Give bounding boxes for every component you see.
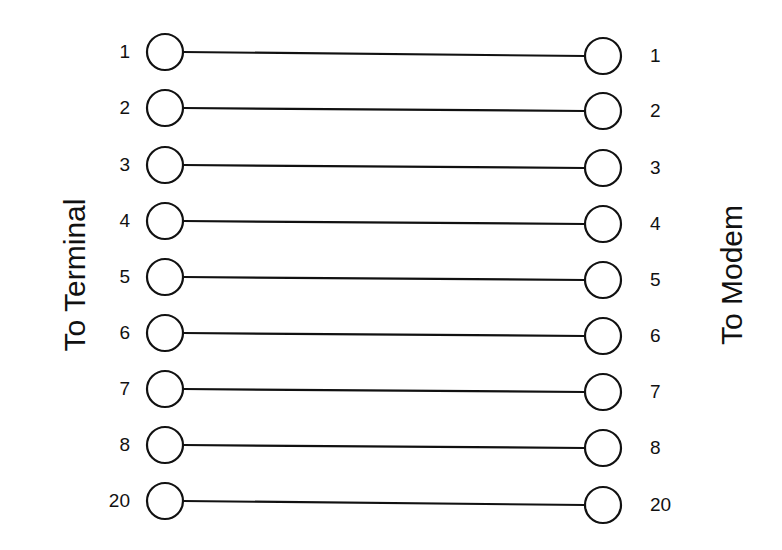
- right-pin-circle: [585, 262, 621, 298]
- right-pin-circle: [585, 487, 621, 523]
- right-side-label: To Modem: [715, 205, 748, 345]
- left-pin-circle: [147, 259, 183, 295]
- wire-line: [183, 52, 585, 56]
- left-pin-number: 1: [119, 41, 130, 62]
- wire-line: [183, 221, 585, 224]
- wire-line: [183, 165, 585, 168]
- left-pin-number: 6: [119, 322, 130, 343]
- connection-row: 55: [119, 259, 660, 298]
- right-pin-circle: [585, 318, 621, 354]
- left-pin-circle: [147, 34, 183, 70]
- right-pin-circle: [585, 38, 621, 74]
- left-pin-number: 5: [119, 266, 130, 287]
- left-pin-number: 3: [119, 154, 130, 175]
- wire-line: [183, 333, 585, 336]
- left-pin-number: 2: [119, 97, 130, 118]
- connection-row: 2020: [109, 483, 671, 523]
- left-pin-number: 8: [119, 434, 130, 455]
- left-pin-circle: [147, 315, 183, 351]
- left-pin-number: 4: [119, 210, 130, 231]
- left-pin-number: 7: [119, 378, 130, 399]
- left-pin-circle: [147, 147, 183, 183]
- left-pin-circle: [147, 371, 183, 407]
- connection-row: 44: [119, 203, 661, 242]
- connection-rows: 11223344556677882020: [109, 34, 671, 523]
- connection-row: 33: [119, 147, 660, 186]
- right-pin-number: 2: [650, 100, 661, 121]
- right-pin-circle: [585, 374, 621, 410]
- wire-line: [183, 389, 585, 392]
- connection-row: 88: [119, 427, 660, 466]
- right-pin-number: 5: [650, 269, 661, 290]
- left-side-label: To Terminal: [58, 199, 91, 352]
- left-pin-circle: [147, 90, 183, 126]
- right-pin-number: 6: [650, 325, 661, 346]
- wire-line: [183, 277, 585, 280]
- wire-line: [183, 501, 585, 505]
- right-pin-number: 8: [650, 437, 661, 458]
- right-pin-circle: [585, 150, 621, 186]
- left-pin-number: 20: [109, 490, 130, 511]
- connection-row: 66: [119, 315, 660, 354]
- left-pin-circle: [147, 203, 183, 239]
- wire-line: [183, 108, 585, 111]
- right-pin-circle: [585, 93, 621, 129]
- right-pin-circle: [585, 206, 621, 242]
- right-pin-circle: [585, 430, 621, 466]
- right-pin-number: 7: [650, 381, 661, 402]
- wire-line: [183, 445, 585, 448]
- wiring-diagram: To Terminal To Modem 1122334455667788202…: [0, 0, 782, 550]
- connection-row: 22: [119, 90, 660, 129]
- right-pin-number: 1: [650, 45, 661, 66]
- left-pin-circle: [147, 427, 183, 463]
- right-pin-number: 4: [650, 213, 661, 234]
- left-pin-circle: [147, 483, 183, 519]
- connection-row: 11: [119, 34, 660, 74]
- right-pin-number: 20: [650, 494, 671, 515]
- connection-row: 77: [119, 371, 660, 410]
- right-pin-number: 3: [650, 157, 661, 178]
